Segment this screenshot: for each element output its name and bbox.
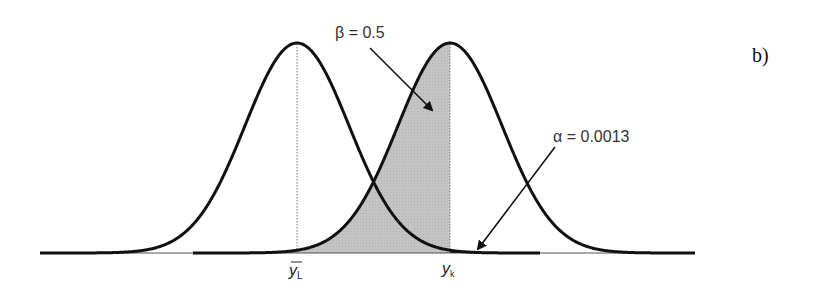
x-tick-y-k: yk (441, 260, 455, 279)
alpha-label: α = 0.0013 (553, 128, 630, 145)
left-distribution-curve (40, 43, 540, 253)
panel-label: b) (752, 44, 769, 67)
beta-region (193, 43, 450, 253)
beta-label: β = 0.5 (335, 24, 385, 41)
x-tick-ybar-l: yL (288, 262, 303, 281)
error-distribution-diagram: β = 0.5 α = 0.0013 b) yL yk (0, 0, 815, 292)
